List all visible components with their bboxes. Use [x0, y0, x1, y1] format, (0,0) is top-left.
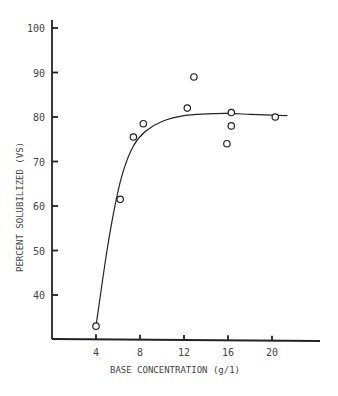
data-point	[93, 323, 99, 329]
x-tick-label: 4	[93, 347, 99, 358]
fitted-curve	[96, 113, 287, 326]
y-tick-label: 60	[33, 201, 45, 212]
data-point	[272, 114, 278, 120]
y-tick-label: 50	[33, 246, 45, 257]
y-axis-title: PERCENT SOLUBILIZED (VS)	[15, 142, 25, 272]
x-tick-label: 8	[137, 347, 143, 358]
y-tick-label: 40	[33, 290, 45, 301]
data-point	[117, 196, 123, 202]
x-axis-title: BASE CONCENTRATION (g/1)	[110, 365, 240, 375]
y-tick-label: 70	[33, 157, 45, 168]
data-point	[184, 105, 190, 111]
data-point	[228, 109, 234, 115]
data-point	[228, 123, 234, 129]
data-point	[140, 120, 146, 126]
y-tick-label: 90	[33, 68, 45, 79]
x-tick-label: 12	[178, 347, 190, 358]
data-point	[130, 134, 136, 140]
y-tick-label: 80	[33, 112, 45, 123]
x-axis	[52, 339, 320, 341]
y-tick-label: 100	[27, 23, 45, 34]
data-point	[191, 74, 197, 80]
data-point	[224, 141, 230, 147]
scatter-chart: 405060708090100 48121620 BASE CONCENTRAT…	[0, 0, 338, 396]
x-tick-label: 16	[222, 347, 234, 358]
x-tick-label: 20	[266, 347, 278, 358]
